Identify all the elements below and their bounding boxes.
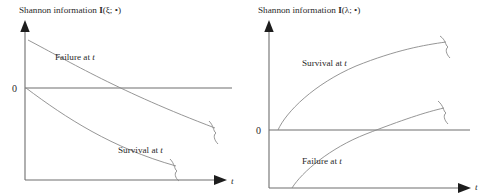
x-axis-arrowhead-left [214, 175, 227, 185]
chart-title-right-suffix: (λ; •) [342, 5, 361, 15]
y-axis-arrowhead-right [264, 20, 273, 32]
curve-survival-right [278, 42, 446, 130]
zero-label-right: 0 [256, 125, 261, 136]
chart-title-right-prefix: Shannon information [258, 5, 338, 15]
chart-title-right: Shannon information I(λ; •) [258, 5, 360, 15]
chart-title-left-suffix: (ξ; •) [103, 5, 121, 15]
figure-container: Shannon information I(ξ; •) t 0 Failure … [0, 0, 488, 193]
x-axis-label-left: t [231, 176, 234, 186]
curve-break-mark-survival-left [170, 159, 179, 181]
curve-failure-right [292, 108, 444, 188]
curve-break-mark-failure-right [438, 101, 448, 124]
x-axis-label-right: t [475, 182, 478, 192]
curve-break-mark-survival-right [440, 36, 450, 58]
curve-label-failure-right: Failure at t [302, 156, 342, 166]
curve-label-survival-right: Survival at t [302, 58, 347, 68]
chart-panel-right: Shannon information I(λ; •) t 0 Survival… [244, 0, 488, 193]
x-axis-arrowhead-right [458, 183, 471, 193]
curve-label-survival-left: Survival at t [118, 145, 163, 155]
chart-title-left: Shannon information I(ξ; •) [19, 5, 121, 15]
y-axis-arrowhead-left [20, 20, 29, 32]
chart-title-left-prefix: Shannon information [19, 5, 99, 15]
curve-break-mark-failure-left [209, 121, 218, 144]
zero-label-left: 0 [12, 83, 17, 94]
curve-label-failure-left: Failure at t [55, 52, 95, 62]
chart-panel-left: Shannon information I(ξ; •) t 0 Failure … [0, 0, 244, 193]
